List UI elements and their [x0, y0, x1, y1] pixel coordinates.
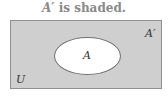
diagram-caption: A′ is shaded. [0, 1, 168, 15]
set-a-label: A [83, 50, 91, 62]
complement-label: A′ [145, 28, 155, 40]
caption-set-symbol: A′ [42, 1, 54, 15]
caption-text: is shaded. [54, 1, 126, 15]
universe-label: U [16, 74, 25, 86]
